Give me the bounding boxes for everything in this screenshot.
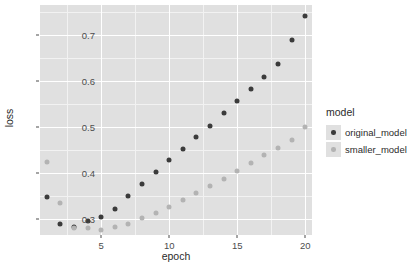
data-point	[221, 176, 226, 181]
grid-line-x-minor	[271, 5, 272, 235]
data-point	[248, 86, 253, 91]
legend-items: original_modelsmaller_model	[326, 124, 406, 158]
y-tick-label: 0.3	[82, 213, 95, 224]
data-point	[112, 206, 117, 211]
data-point	[126, 222, 131, 227]
data-point	[276, 145, 281, 150]
x-tick-mark	[101, 235, 102, 238]
data-point	[235, 169, 240, 174]
y-tick-label: 0.4	[82, 167, 95, 178]
data-point	[99, 227, 104, 232]
y-axis-title: loss	[2, 0, 16, 235]
data-point	[140, 216, 145, 221]
data-point	[99, 214, 104, 219]
data-point	[153, 170, 158, 175]
legend-point-icon	[331, 130, 336, 135]
legend-key-swatch	[326, 125, 341, 140]
data-point	[44, 159, 49, 164]
grid-line-x-major	[101, 5, 102, 235]
grid-line-x-major	[305, 5, 306, 235]
data-point	[167, 204, 172, 209]
grid-line-y-minor	[40, 150, 312, 151]
data-point	[58, 222, 63, 227]
data-point	[58, 201, 63, 206]
grid-line-y-minor	[40, 58, 312, 59]
data-point	[180, 146, 185, 151]
y-tick-label: 0.7	[82, 29, 95, 40]
data-point	[85, 225, 90, 230]
scatter-chart: loss 0.30.40.50.60.7 5101520 epoch model…	[0, 0, 409, 274]
legend-key-swatch	[326, 142, 341, 157]
data-point	[289, 37, 294, 42]
data-point	[72, 225, 77, 230]
legend-item-smaller-model[interactable]: smaller_model	[326, 141, 406, 158]
y-tick-mark	[36, 126, 39, 127]
data-point	[208, 184, 213, 189]
x-axis-title-label: epoch	[162, 250, 191, 262]
data-point	[289, 137, 294, 142]
x-tick-mark	[305, 235, 306, 238]
grid-line-x-minor	[67, 5, 68, 235]
x-axis-title: epoch	[40, 250, 312, 262]
y-tick-mark	[36, 218, 39, 219]
legend-title: model	[326, 106, 406, 118]
grid-line-x-major	[169, 5, 170, 235]
legend-item-label: smaller_model	[345, 144, 407, 155]
data-point	[303, 124, 308, 129]
y-tick-label: 0.5	[82, 121, 95, 132]
grid-line-y-minor	[40, 12, 312, 13]
data-point	[153, 211, 158, 216]
legend-item-label: original_model	[345, 127, 407, 138]
legend-item-original-model[interactable]: original_model	[326, 124, 406, 141]
grid-line-y-minor	[40, 196, 312, 197]
data-point	[208, 123, 213, 128]
x-tick-mark	[237, 235, 238, 238]
data-point	[126, 194, 131, 199]
data-point	[180, 198, 185, 203]
data-point	[112, 224, 117, 229]
grid-line-x-minor	[135, 5, 136, 235]
legend: model original_modelsmaller_model	[326, 106, 406, 158]
y-tick-mark	[36, 34, 39, 35]
data-point	[248, 161, 253, 166]
data-point	[303, 14, 308, 19]
data-point	[140, 181, 145, 186]
grid-line-x-minor	[203, 5, 204, 235]
data-point	[276, 61, 281, 66]
data-point	[262, 74, 267, 79]
data-point	[194, 191, 199, 196]
y-tick-mark	[36, 80, 39, 81]
data-point	[167, 158, 172, 163]
x-tick-mark	[169, 235, 170, 238]
y-tick-label: 0.6	[82, 75, 95, 86]
data-point	[262, 153, 267, 158]
data-point	[235, 99, 240, 104]
data-point	[194, 135, 199, 140]
data-point	[221, 111, 226, 116]
grid-line-y-minor	[40, 104, 312, 105]
data-point	[44, 195, 49, 200]
y-tick-mark	[36, 172, 39, 173]
grid-line-x-major	[237, 5, 238, 235]
y-axis-title-label: loss	[3, 108, 15, 127]
legend-point-icon	[331, 147, 336, 152]
